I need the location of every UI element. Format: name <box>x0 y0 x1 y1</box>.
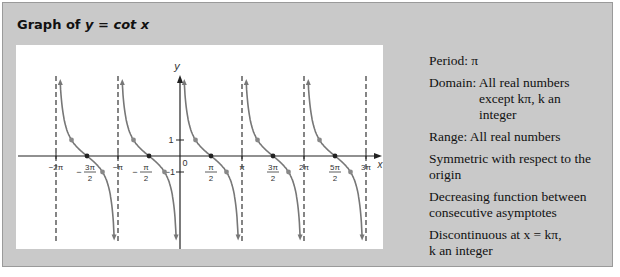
figure-panel: Graph of y = cot x yx01−1−2π3π2−−ππ2−π2π… <box>2 2 613 267</box>
title-equation: y = cot x <box>85 17 149 32</box>
figure-title: Graph of y = cot x <box>17 17 149 32</box>
y-tick-label: 1 <box>168 135 173 145</box>
arrow-down-icon <box>236 234 241 240</box>
data-point <box>162 170 167 175</box>
x-tick-label-den: 2 <box>271 174 276 183</box>
arrow-down-icon <box>298 234 303 240</box>
title-prefix: Graph of <box>17 17 85 32</box>
arrow-up-icon <box>120 79 125 85</box>
property-line: Period: π <box>429 53 615 69</box>
arrow-up-icon <box>244 79 249 85</box>
data-point <box>193 138 198 143</box>
data-point <box>69 138 74 143</box>
property-line: Range: All real numbers <box>429 129 615 145</box>
x-tick-label-num: π <box>208 163 214 172</box>
x-tick-label-num: 3π <box>85 163 95 172</box>
x-tick-label-sign: − <box>132 167 137 177</box>
property-line: except kπ, k an <box>429 91 615 107</box>
cot-branch <box>122 83 176 236</box>
data-point <box>317 138 322 143</box>
data-point <box>255 138 260 143</box>
property-line: Discontinuous at x = kπ, <box>429 227 615 243</box>
cot-branch <box>184 83 238 236</box>
y-axis-arrow-icon <box>177 75 183 83</box>
data-point <box>100 170 105 175</box>
data-point <box>131 138 136 143</box>
x-tick-label-num: π <box>143 163 149 172</box>
property-line: Symmetric with respect to the <box>429 151 615 167</box>
data-point <box>209 154 214 159</box>
property-line: origin <box>429 167 615 183</box>
x-tick-label: −π <box>113 163 124 172</box>
x-tick-label: 2π <box>299 163 309 172</box>
x-tick-label-den: 2 <box>209 174 214 183</box>
data-point <box>147 154 152 159</box>
properties-list: Period: πDomain: All real numbersexcept … <box>429 53 615 265</box>
x-axis-label: x <box>377 159 384 170</box>
x-tick-label-sign: − <box>76 167 81 177</box>
cot-graph-svg: yx01−1−2π3π2−−ππ2−π2π3π22π5π23π <box>16 45 383 249</box>
property-line: Domain: All real numbers <box>429 75 615 91</box>
arrow-up-icon <box>306 79 311 85</box>
data-point <box>271 154 276 159</box>
y-axis-label: y <box>173 60 181 72</box>
property-range: Range: All real numbers <box>429 129 615 145</box>
x-tick-label: 3π <box>361 163 371 172</box>
cot-branch <box>60 83 114 236</box>
property-discontinuous: Discontinuous at x = kπ,k an integer <box>429 227 615 259</box>
x-tick-label: π <box>239 163 245 172</box>
property-line: integer <box>429 107 615 123</box>
data-point <box>85 154 90 159</box>
arrow-down-icon <box>360 234 365 240</box>
data-point <box>348 170 353 175</box>
x-tick-label-den: 2 <box>144 174 149 183</box>
origin-label: 0 <box>182 158 187 168</box>
arrow-up-icon <box>58 79 63 85</box>
property-period: Period: π <box>429 53 615 69</box>
arrow-down-icon <box>112 234 117 240</box>
cot-branch <box>308 83 362 236</box>
property-line: k an integer <box>429 243 615 259</box>
x-tick-label: −2π <box>49 163 64 172</box>
x-tick-label-num: 3π <box>268 163 278 172</box>
property-domain: Domain: All real numbersexcept kπ, k ani… <box>429 75 615 123</box>
cot-branch <box>246 83 300 236</box>
cot-graph: yx01−1−2π3π2−−ππ2−π2π3π22π5π23π <box>16 45 383 249</box>
x-tick-label-den: 2 <box>333 174 338 183</box>
property-symmetry: Symmetric with respect to theorigin <box>429 151 615 183</box>
property-line: consecutive asymptotes <box>429 205 615 221</box>
x-tick-label-num: 5π <box>330 163 340 172</box>
data-point <box>224 170 229 175</box>
property-line: Decreasing function between <box>429 189 615 205</box>
data-point <box>333 154 338 159</box>
data-point <box>286 170 291 175</box>
arrow-down-icon <box>174 234 179 240</box>
property-decreasing: Decreasing function betweenconsecutive a… <box>429 189 615 221</box>
x-tick-label-den: 2 <box>88 174 93 183</box>
